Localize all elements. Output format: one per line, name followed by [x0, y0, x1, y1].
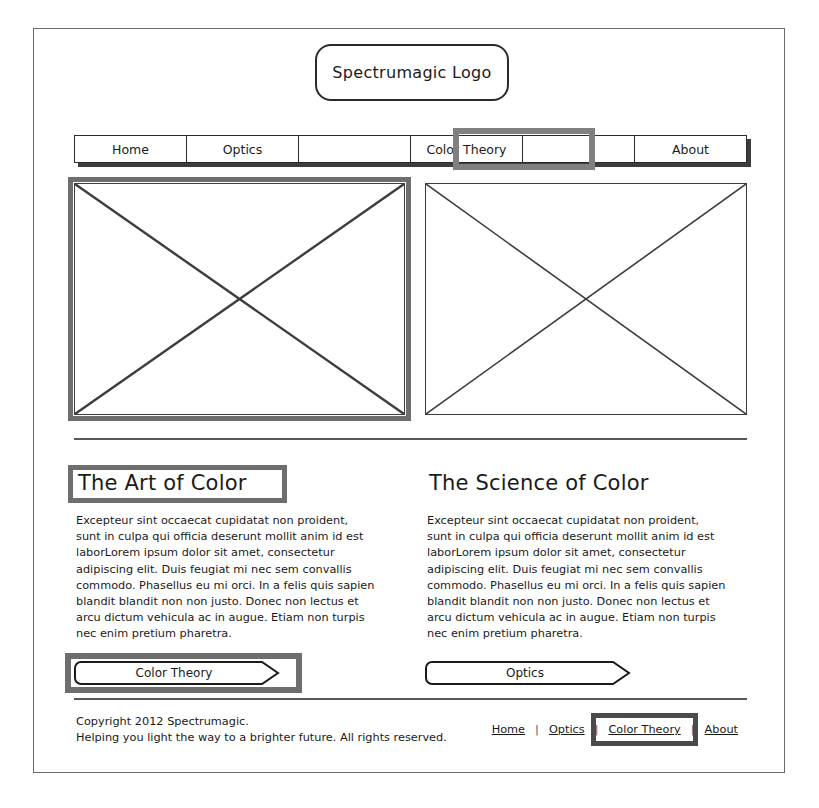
wireframe-page-frame: Spectrumagic Logo Home Optics Color Theo… — [33, 28, 785, 773]
arrow-button-label: Color Theory — [74, 661, 274, 685]
footer-link-optics[interactable]: Optics — [540, 723, 594, 736]
nav-item-label: About — [672, 142, 709, 157]
heading-art-of-color-wrap: The Art of Color — [74, 469, 251, 499]
image-placeholder-right-box — [425, 183, 747, 415]
site-logo-label: Spectrumagic Logo — [332, 63, 491, 82]
footer-link-home[interactable]: Home — [483, 723, 534, 736]
nav-item-empty-2[interactable] — [523, 136, 635, 162]
site-logo[interactable]: Spectrumagic Logo — [315, 44, 509, 101]
copyright-block: Copyright 2012 Spectrumagic. Helping you… — [76, 714, 447, 746]
footer-divider — [74, 698, 747, 700]
page-footer: Copyright 2012 Spectrumagic. Helping you… — [74, 714, 747, 764]
navigation-bar: Home Optics Color Theory About — [74, 135, 747, 163]
arrow-button-label: Optics — [425, 661, 625, 685]
footer-links: Home | Optics | Color Theory | About — [483, 723, 747, 736]
heading-science-of-color: The Science of Color — [425, 469, 653, 499]
image-cross-icon — [426, 184, 746, 414]
media-row — [34, 177, 784, 427]
button-area-left: Color Theory — [74, 661, 394, 691]
image-placeholder-right[interactable] — [425, 183, 747, 415]
nav-item-optics[interactable]: Optics — [187, 136, 299, 162]
footer-link-color-theory[interactable]: Color Theory — [599, 723, 689, 736]
main-navigation: Home Optics Color Theory About — [74, 135, 747, 163]
button-area-right: Optics — [425, 661, 745, 691]
paragraph-art-of-color: Excepteur sint occaecat cupidatat non pr… — [76, 513, 376, 643]
heading-art-of-color: The Art of Color — [74, 469, 251, 499]
column-art-of-color: The Art of Color Excepteur sint occaecat… — [74, 469, 394, 691]
copyright-line-1: Copyright 2012 Spectrumagic. — [76, 714, 447, 730]
arrow-button-color-theory[interactable]: Color Theory — [74, 661, 293, 685]
nav-item-about[interactable]: About — [635, 136, 746, 162]
image-cross-icon — [75, 184, 404, 414]
paragraph-science-of-color: Excepteur sint occaecat cupidatat non pr… — [427, 513, 727, 643]
image-placeholder-left-box — [74, 183, 405, 415]
footer-link-about[interactable]: About — [696, 723, 747, 736]
footer-link-color-theory-wrap: Color Theory — [599, 723, 689, 736]
column-science-of-color: The Science of Color Excepteur sint occa… — [425, 469, 745, 691]
arrow-button-optics[interactable]: Optics — [425, 661, 644, 685]
nav-item-label: Optics — [223, 142, 263, 157]
heading-science-of-color-wrap: The Science of Color — [425, 469, 653, 499]
nav-item-color-theory[interactable]: Color Theory — [411, 136, 523, 162]
nav-item-empty-1[interactable] — [299, 136, 411, 162]
content-divider-top — [74, 438, 747, 440]
nav-item-label: Home — [112, 142, 149, 157]
copyright-line-2: Helping you light the way to a brighter … — [76, 730, 447, 746]
page-content: Spectrumagic Logo Home Optics Color Theo… — [34, 29, 784, 772]
nav-item-home[interactable]: Home — [75, 136, 187, 162]
image-placeholder-left[interactable] — [74, 183, 405, 415]
nav-item-label: Color Theory — [426, 142, 506, 157]
